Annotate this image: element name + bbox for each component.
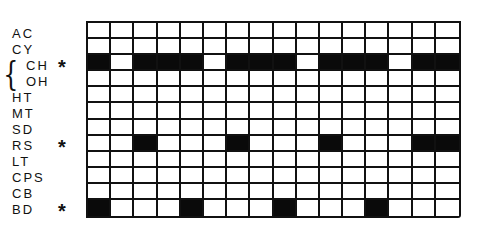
brace-grouping-ch-oh: { (3, 56, 18, 90)
empty-cell (204, 152, 227, 168)
empty-cell (413, 168, 436, 184)
empty-cell (111, 200, 134, 216)
row-label-ac: AC (12, 26, 82, 42)
empty-cell (134, 152, 157, 168)
empty-cell (134, 71, 157, 87)
empty-cell (227, 39, 250, 55)
row-labels: ACCYCH*OHHTMTSDRS*LTCPSCBBD* (12, 26, 82, 218)
empty-cell (389, 120, 412, 136)
empty-cell (111, 103, 134, 119)
empty-cell (274, 87, 297, 103)
filled-cell (413, 55, 436, 71)
empty-cell (413, 152, 436, 168)
empty-cell (111, 39, 134, 55)
empty-cell (181, 87, 204, 103)
empty-cell (436, 103, 459, 119)
empty-cell (320, 168, 343, 184)
row-label-cps: CPS (12, 170, 82, 186)
empty-cell (134, 120, 157, 136)
empty-cell (181, 23, 204, 39)
empty-cell (134, 184, 157, 200)
empty-cell (366, 120, 389, 136)
empty-cell (250, 200, 273, 216)
empty-cell (436, 184, 459, 200)
filled-cell (88, 55, 111, 71)
empty-cell (343, 152, 366, 168)
empty-cell (389, 152, 412, 168)
empty-cell (297, 200, 320, 216)
empty-cell (250, 23, 273, 39)
row-label-sd: SD (12, 122, 82, 138)
empty-cell (389, 103, 412, 119)
empty-cell (111, 152, 134, 168)
empty-cell (274, 39, 297, 55)
empty-cell (274, 23, 297, 39)
empty-cell (134, 103, 157, 119)
empty-cell (181, 39, 204, 55)
empty-cell (274, 120, 297, 136)
empty-cell (436, 120, 459, 136)
empty-cell (436, 152, 459, 168)
empty-cell (134, 39, 157, 55)
empty-cell (158, 136, 181, 152)
filled-cell (413, 136, 436, 152)
empty-cell (250, 71, 273, 87)
empty-cell (88, 39, 111, 55)
empty-cell (436, 39, 459, 55)
empty-cell (227, 23, 250, 39)
empty-cell (320, 120, 343, 136)
empty-cell (436, 200, 459, 216)
empty-cell (389, 168, 412, 184)
empty-cell (181, 152, 204, 168)
empty-cell (343, 120, 366, 136)
empty-cell (274, 136, 297, 152)
empty-cell (204, 120, 227, 136)
empty-cell (343, 71, 366, 87)
empty-cell (134, 23, 157, 39)
row-label-text: CB (12, 186, 34, 202)
row-label-text: AC (12, 26, 34, 42)
empty-cell (111, 23, 134, 39)
empty-cell (204, 55, 227, 71)
empty-cell (227, 120, 250, 136)
empty-cell (158, 200, 181, 216)
empty-cell (250, 39, 273, 55)
filled-cell (274, 200, 297, 216)
filled-cell (134, 136, 157, 152)
filled-cell (436, 136, 459, 152)
empty-cell (343, 87, 366, 103)
empty-cell (389, 136, 412, 152)
empty-cell (250, 120, 273, 136)
row-label-ch: CH* (12, 58, 82, 74)
empty-cell (413, 39, 436, 55)
row-label-text: LT (12, 154, 30, 170)
empty-cell (413, 103, 436, 119)
empty-cell (204, 103, 227, 119)
row-label-text: SD (12, 122, 34, 138)
asterisk-marker-icon: * (58, 59, 68, 75)
filled-cell (158, 55, 181, 71)
empty-cell (436, 23, 459, 39)
row-label-oh: OH (12, 74, 82, 90)
empty-cell (88, 71, 111, 87)
empty-cell (204, 136, 227, 152)
empty-cell (366, 168, 389, 184)
row-label-rs: RS* (12, 138, 82, 154)
empty-cell (297, 87, 320, 103)
filled-cell (320, 136, 343, 152)
empty-cell (111, 55, 134, 71)
empty-cell (320, 103, 343, 119)
empty-cell (227, 200, 250, 216)
empty-cell (297, 23, 320, 39)
row-label-text: CH (26, 58, 49, 74)
empty-cell (389, 55, 412, 71)
empty-cell (413, 23, 436, 39)
empty-cell (366, 136, 389, 152)
filled-cell (366, 55, 389, 71)
empty-cell (158, 71, 181, 87)
empty-cell (181, 120, 204, 136)
empty-cell (389, 184, 412, 200)
empty-cell (297, 152, 320, 168)
empty-cell (88, 152, 111, 168)
row-label-lt: LT (12, 154, 82, 170)
